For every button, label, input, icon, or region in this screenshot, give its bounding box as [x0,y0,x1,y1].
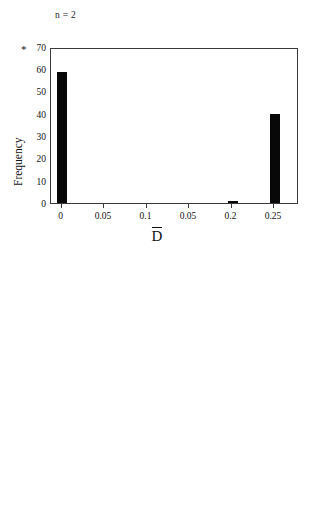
histogram-panel-top: n = 2 Frequency * 70 60 50 40 30 20 10 0… [0,0,314,262]
bar [57,72,67,204]
x-tick-mark [146,204,147,208]
y-tick-label: 50 [26,87,46,97]
x-tick-label: 0.05 [168,211,208,221]
histogram-panel-bottom: n = 6 Frequency 50 40 30 20 10 0 0 0.05 … [0,262,314,524]
x-tick-label: 0.25 [253,211,293,221]
x-tick-mark [231,204,232,208]
bars-container-top [51,49,297,203]
x-tick-label: 0.1 [126,211,166,221]
x-tick-label: 0.2 [211,211,251,221]
x-tick-mark [188,204,189,208]
bar [228,201,238,203]
y-tick-label: 10 [26,177,46,187]
plot-area-top [50,48,298,204]
sample-size-label-top: n = 2 [55,10,76,20]
y-tick-label: 0 [26,199,46,209]
x-tick-mark [61,204,62,208]
x-tick-label: 0 [41,211,81,221]
x-tick-mark [273,204,274,208]
x-axis-title-text: D [152,228,163,245]
y-tick-label: 40 [26,110,46,120]
y-axis-title-top: Frequency [12,137,24,186]
bar [270,114,280,203]
x-tick-label: 0.05 [83,211,123,221]
x-tick-mark [103,204,104,208]
y-tick-label: 20 [26,154,46,164]
y-tick-label: 70 [26,43,46,53]
x-axis-title-top: D [0,228,314,245]
y-tick-label: 30 [26,132,46,142]
y-tick-label: 60 [26,65,46,75]
